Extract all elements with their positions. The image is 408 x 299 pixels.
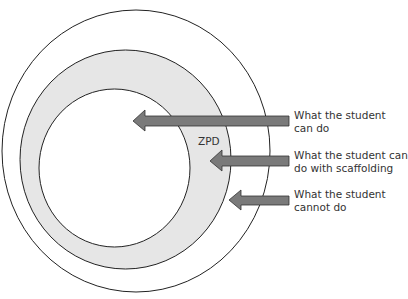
label-can-do: What the student can do	[294, 109, 386, 134]
label-cannot-do: What the student cannot do	[294, 188, 386, 213]
inner-circle-can-do	[39, 89, 190, 247]
label-line: What the student	[294, 188, 386, 201]
label-line: What the student	[294, 109, 386, 122]
label-line: cannot do	[294, 201, 386, 214]
label-line: can do	[294, 122, 386, 135]
label-line: What the student can	[294, 149, 408, 162]
zpd-label: ZPD	[198, 135, 220, 147]
label-with-scaffolding: What the student can do with scaffolding	[294, 149, 408, 174]
label-line: do with scaffolding	[294, 162, 408, 175]
